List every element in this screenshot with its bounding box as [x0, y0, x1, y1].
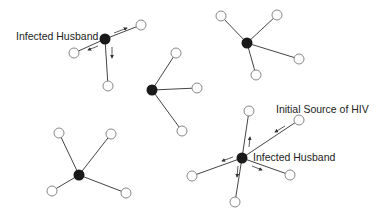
- infected-husband-node: [100, 34, 111, 45]
- infected-node: [147, 85, 158, 96]
- arrow-icon: [222, 157, 233, 161]
- partner-node: [230, 197, 240, 207]
- label-infected-husband-1: Infected Husband: [16, 31, 98, 42]
- infected-node: [242, 38, 253, 49]
- infected-husband-node: [237, 153, 248, 164]
- partner-node: [69, 48, 79, 58]
- arrow-icon: [114, 28, 127, 33]
- partner-node: [251, 70, 261, 80]
- infected-nodes: [74, 34, 253, 181]
- partner-node: [177, 126, 187, 136]
- label-infected-husband-2: Infected Husband: [253, 152, 335, 163]
- arrow-icon: [249, 137, 250, 147]
- initial-source-node: [294, 115, 304, 125]
- partner-node: [47, 186, 57, 196]
- partner-node: [272, 10, 282, 20]
- arrow-icon: [237, 166, 238, 177]
- partner-node: [103, 81, 113, 91]
- partner-node: [106, 129, 116, 139]
- arrow-icon: [252, 166, 262, 170]
- partner-node: [136, 20, 146, 30]
- infected-node: [74, 170, 85, 181]
- partner-node: [121, 188, 131, 198]
- partner-node: [244, 106, 254, 116]
- partner-node: [171, 48, 181, 58]
- arrow-icon: [275, 126, 285, 132]
- partner-node: [54, 128, 64, 138]
- arrow-icon: [88, 46, 98, 50]
- partner-node: [294, 54, 304, 64]
- partner-node: [216, 11, 226, 21]
- label-initial-source: Initial Source of HIV: [276, 104, 369, 115]
- partner-node: [187, 171, 197, 181]
- edges: [52, 15, 299, 202]
- partner-node: [192, 83, 202, 93]
- partner-node: [285, 170, 295, 180]
